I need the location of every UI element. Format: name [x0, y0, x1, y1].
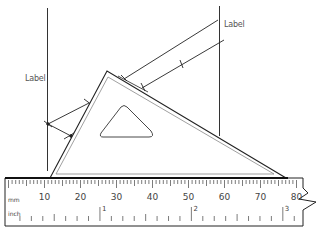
diagram-canvas: Label Label mm inch 1020304050607080 123: [0, 0, 322, 231]
set-square: [50, 71, 286, 178]
mm-number-40: 40: [147, 192, 158, 202]
inch-unit-label: inch: [8, 210, 21, 217]
mm-number-50: 50: [183, 192, 194, 202]
left-label: Label: [25, 74, 46, 83]
inch-number-2: 2: [193, 205, 197, 213]
mm-number-10: 10: [39, 192, 50, 202]
ruler: [5, 178, 316, 226]
inch-number-1: 1: [102, 205, 106, 213]
mm-number-20: 20: [75, 192, 86, 202]
mm-number-70: 70: [255, 192, 266, 202]
mm-number-80: 80: [291, 192, 302, 202]
right-construction: [121, 20, 224, 91]
mm-number-60: 60: [219, 192, 230, 202]
mm-unit-label: mm: [8, 196, 20, 203]
inch-number-3: 3: [285, 205, 289, 213]
mm-number-30: 30: [111, 192, 122, 202]
right-label: Label: [224, 20, 245, 29]
